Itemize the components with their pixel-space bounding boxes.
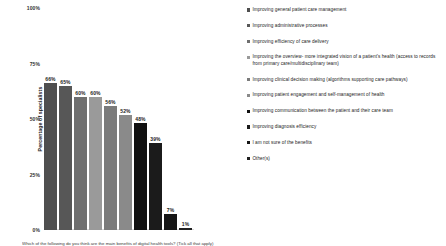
legend-item-label: I am not sure of the benefits (252, 140, 312, 146)
legend-item[interactable]: I am not sure of the benefits (247, 140, 443, 146)
bar-slot: 39% (149, 8, 162, 230)
bar[interactable] (89, 97, 102, 230)
bar-slot: 48% (134, 8, 147, 230)
legend-item[interactable]: Improving the overview- more integrated … (247, 54, 443, 67)
legend-item[interactable]: Other(s) (247, 156, 443, 162)
bar-value-label: 56% (105, 99, 115, 105)
bar[interactable] (44, 83, 57, 230)
legend-swatch-icon (247, 56, 250, 59)
bar-value-label: 7% (167, 207, 174, 213)
bar-slot: 60% (74, 8, 87, 230)
legend-item[interactable]: Improving general patient care managemen… (247, 7, 443, 13)
bar-value-label: 60% (90, 90, 100, 96)
legend-item[interactable]: Improving communication between the pati… (247, 108, 443, 114)
bar-slot: 65% (59, 8, 72, 230)
plot-area: Percentage of specialists 100%75%50%25%0… (44, 8, 194, 230)
bar-value-label: 39% (150, 136, 160, 142)
y-axis-tick: 100% (27, 5, 40, 11)
bar-slot: 7% (164, 8, 177, 230)
legend-swatch-icon (247, 40, 250, 43)
legend-item-label: Improving the overview- more integrated … (252, 54, 443, 67)
legend-item-label: Improving patient engagement and self-ma… (252, 92, 384, 98)
legend: Improving general patient care managemen… (247, 7, 443, 171)
bar[interactable] (119, 115, 132, 230)
legend-swatch-icon (247, 24, 250, 27)
bar-value-label: 1% (182, 221, 189, 227)
y-axis-tick: 0% (33, 227, 40, 233)
legend-swatch-icon (247, 94, 250, 97)
legend-item-label: Improving clinical decision making (algo… (252, 77, 407, 83)
legend-item-label: Improving general patient care managemen… (252, 7, 346, 13)
legend-item-label: Other(s) (252, 156, 270, 162)
bar-slot: 56% (104, 8, 117, 230)
legend-swatch-icon (247, 78, 250, 81)
bar[interactable] (179, 228, 192, 230)
bar-slot: 60% (89, 8, 102, 230)
bar[interactable] (134, 123, 147, 230)
legend-item-label: Improving administrative processes (252, 23, 327, 29)
bar-value-label: 52% (120, 108, 130, 114)
bar-value-label: 66% (45, 76, 55, 82)
legend-item[interactable]: Improving efficiency of care delivery (247, 39, 443, 45)
bar-slot: 1% (179, 8, 192, 230)
legend-item[interactable]: Improving diagnosis efficiency (247, 124, 443, 130)
bar[interactable] (149, 143, 162, 230)
bar-value-label: 60% (75, 90, 85, 96)
bar-slot: 52% (119, 8, 132, 230)
legend-swatch-icon (247, 157, 250, 160)
bar[interactable] (164, 214, 177, 230)
legend-item[interactable]: Improving patient engagement and self-ma… (247, 92, 443, 98)
y-axis-tick: 75% (30, 61, 40, 67)
legend-swatch-icon (247, 141, 250, 144)
legend-item[interactable]: Improving administrative processes (247, 23, 443, 29)
legend-swatch-icon (247, 110, 250, 113)
legend-swatch-icon (247, 125, 250, 128)
bar-series: 66%65%60%60%56%52%48%39%7%1% (44, 8, 194, 230)
legend-item[interactable]: Improving clinical decision making (algo… (247, 77, 443, 83)
bar[interactable] (59, 86, 72, 230)
bar-value-label: 48% (135, 116, 145, 122)
y-axis-tick: 25% (30, 172, 40, 178)
bar[interactable] (104, 106, 117, 230)
bar-value-label: 65% (60, 79, 70, 85)
chart-caption: Which of the following do you think are … (22, 240, 446, 246)
bar-slot: 66% (44, 8, 57, 230)
bar[interactable] (74, 97, 87, 230)
legend-swatch-icon (247, 8, 250, 11)
y-axis-tick: 50% (30, 116, 40, 122)
legend-item-label: Improving diagnosis efficiency (252, 124, 316, 130)
legend-item-label: Improving efficiency of care delivery (252, 39, 328, 45)
legend-item-label: Improving communication between the pati… (252, 108, 392, 114)
